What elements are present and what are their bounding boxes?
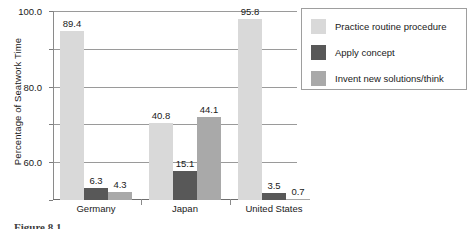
y-axis-tick: 20.0 xyxy=(49,162,53,163)
y-axis-tick: 80.0 xyxy=(49,49,53,50)
legend-item: Apply concept xyxy=(311,44,395,60)
bar-value-label: 3.5 xyxy=(267,180,280,191)
bar: 4.3 xyxy=(108,192,132,200)
legend-label: Invent new solutions/think xyxy=(335,73,444,84)
bar: 0.7 xyxy=(286,199,310,200)
bar: 40.8 xyxy=(149,123,173,200)
bar: 15.1 xyxy=(173,171,197,200)
y-axis-tick: 0.0 xyxy=(49,200,53,201)
y-axis-line xyxy=(53,11,54,200)
y-axis-tick-label: 60.0 xyxy=(24,157,43,168)
figure-caption: Figure 8.1 xyxy=(14,221,61,229)
bar-value-label: 0.7 xyxy=(291,186,304,197)
legend-label: Practice routine procedure xyxy=(335,21,446,32)
x-axis-group-separator xyxy=(230,199,231,205)
legend-color-swatch xyxy=(311,45,326,60)
bar-value-label: 6.3 xyxy=(89,175,102,186)
y-axis-tick: 40.0 xyxy=(49,124,53,125)
bar: 89.4 xyxy=(60,31,84,200)
plot-area: 0.020.040.060.080.0100.0 89.46.34.340.81… xyxy=(53,11,297,200)
bar: 44.1 xyxy=(197,117,221,200)
gridline xyxy=(54,11,297,12)
legend: Practice routine procedureApply conceptI… xyxy=(301,8,467,90)
bar-value-label: 44.1 xyxy=(200,104,219,115)
bar-chart: Percentage of Seatwork Time 0.020.040.06… xyxy=(0,0,468,229)
legend-label: Apply concept xyxy=(335,47,395,58)
y-axis-tick: 100.0 xyxy=(49,11,53,12)
x-axis-category-label: Germany xyxy=(76,203,115,214)
bar-value-label: 40.8 xyxy=(152,110,171,121)
bar-value-label: 4.3 xyxy=(113,179,126,190)
legend-color-swatch xyxy=(311,71,326,86)
bar-value-label: 95.8 xyxy=(241,6,260,17)
y-axis-title: Percentage of Seatwork Time xyxy=(12,7,23,197)
bar: 3.5 xyxy=(262,193,286,200)
x-axis-category-label: United States xyxy=(245,203,302,214)
y-axis-tick-label: 100.0 xyxy=(18,6,42,17)
legend-color-swatch xyxy=(311,19,326,34)
legend-item: Practice routine procedure xyxy=(311,18,446,34)
bar: 95.8 xyxy=(238,19,262,200)
bar-value-label: 15.1 xyxy=(176,158,195,169)
y-axis-tick-label: 80.0 xyxy=(24,81,43,92)
bar: 6.3 xyxy=(84,188,108,200)
bar-value-label: 89.4 xyxy=(63,18,82,29)
x-axis-group-separator xyxy=(141,199,142,205)
legend-item: Invent new solutions/think xyxy=(311,70,444,86)
x-axis-category-label: Japan xyxy=(172,203,198,214)
y-axis-tick: 60.0 xyxy=(49,87,53,88)
